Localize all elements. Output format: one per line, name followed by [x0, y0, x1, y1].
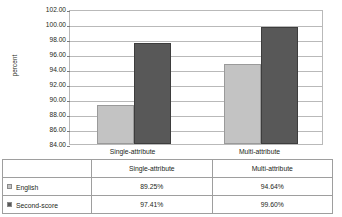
legend-swatch-english: [7, 184, 12, 189]
table-cell-value: 97.41%: [92, 196, 213, 214]
series-name: English: [16, 183, 38, 190]
bar: [134, 43, 171, 144]
bar: [261, 27, 298, 144]
table-row-label: English: [3, 178, 92, 196]
y-axis-tick-label: 90.00: [49, 97, 66, 104]
data-table: Single-attributeMulti-attributeEnglish89…: [2, 159, 333, 214]
y-axis-tick-label: 88.00: [49, 112, 66, 119]
table-cell-value: 99.60%: [212, 196, 333, 214]
x-axis-category-label: Single-attribute: [69, 146, 196, 158]
table-row: English89.25%94.64%: [3, 178, 333, 196]
bar-chart: percent 102.00100.0098.0096.0094.0092.00…: [0, 0, 342, 160]
chart-figure: percent 102.00100.0098.0096.0094.0092.00…: [0, 0, 342, 217]
x-axis-category-label: Multi-attribute: [196, 146, 323, 158]
table-row-label: Second-score: [3, 196, 92, 214]
table-cell-value: 94.64%: [212, 178, 333, 196]
table-column-header: Single-attribute: [92, 160, 213, 178]
table-cell-value: 89.25%: [92, 178, 213, 196]
table-column-header: Multi-attribute: [212, 160, 333, 178]
table-row: Second-score97.41%99.60%: [3, 196, 333, 214]
y-axis-ticks: 102.00100.0098.0096.0094.0092.0090.0088.…: [28, 10, 66, 145]
bar-group: [197, 11, 324, 144]
legend-swatch-second-score: [7, 202, 12, 207]
y-axis-tick-label: 96.00: [49, 52, 66, 59]
plot-area: [69, 10, 323, 145]
bar-series-container: [70, 11, 322, 144]
y-axis-tick-label: 102.00: [46, 7, 66, 14]
table-corner-cell: [3, 160, 92, 178]
y-axis-tick-label: 84.00: [49, 142, 66, 149]
bar: [224, 64, 261, 144]
bar: [97, 105, 134, 144]
series-name: Second-score: [16, 201, 58, 208]
y-axis-tick-label: 86.00: [49, 127, 66, 134]
x-axis-category-labels: Single-attributeMulti-attribute: [69, 146, 323, 159]
y-axis-tick-label: 100.00: [46, 22, 66, 29]
table-header-row: Single-attributeMulti-attribute: [3, 160, 333, 178]
bar-group: [70, 11, 197, 144]
y-axis-title: percent: [11, 36, 18, 96]
y-axis-tick-label: 92.00: [49, 82, 66, 89]
y-axis-tick-label: 94.00: [49, 67, 66, 74]
y-axis-tick-label: 98.00: [49, 37, 66, 44]
